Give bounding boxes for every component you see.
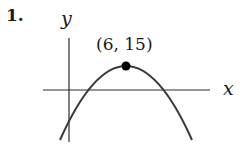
- vertex-point: [122, 62, 131, 71]
- parabola-curve: [60, 66, 192, 140]
- x-axis-label: x: [223, 77, 234, 99]
- vertex-label: (6, 15): [96, 34, 153, 54]
- y-axis-label: y: [60, 7, 72, 29]
- parabola-graph: y x (6, 15): [0, 0, 248, 149]
